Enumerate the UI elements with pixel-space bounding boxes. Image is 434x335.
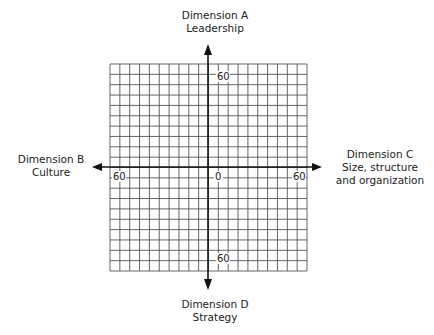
quadrant-grid: 60 60 0 60 60 <box>0 0 434 335</box>
arrow-left-icon <box>92 163 102 171</box>
tick-bottom-60: 60 <box>217 253 230 264</box>
tick-left-60: 60 <box>113 171 126 182</box>
arrow-up-icon <box>204 44 212 55</box>
arrow-down-icon <box>204 279 212 290</box>
tick-origin-0: 0 <box>215 171 221 182</box>
tick-top-60: 60 <box>217 71 230 82</box>
arrow-right-icon <box>312 163 322 171</box>
tick-right-60: 60 <box>293 171 306 182</box>
